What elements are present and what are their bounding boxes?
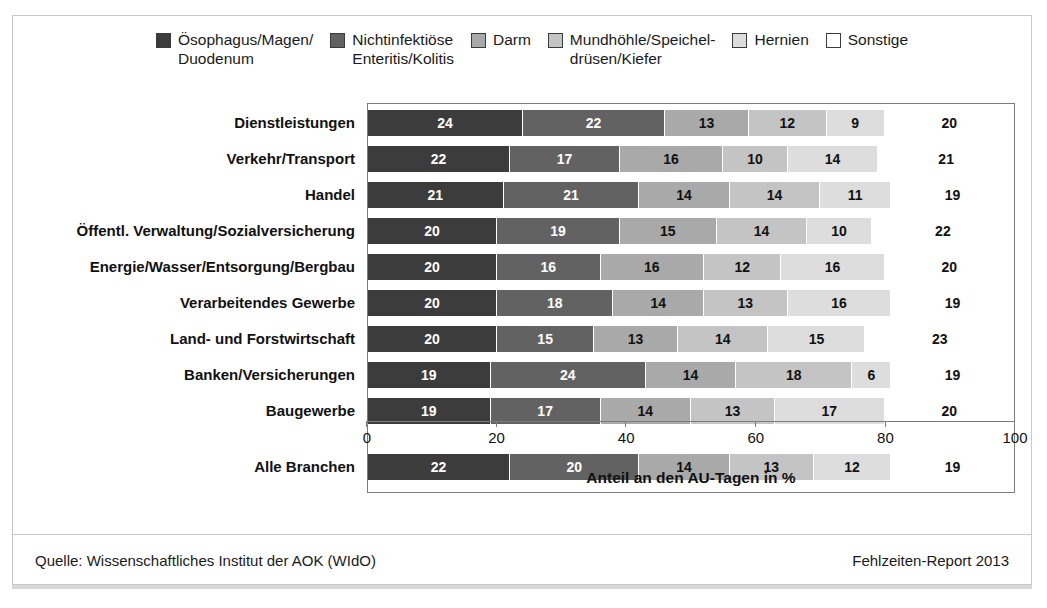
bar-segment: 19 xyxy=(497,218,620,244)
value-axis: 020406080100 xyxy=(367,421,1015,467)
bar-segment: 11 xyxy=(820,182,891,208)
footer-divider xyxy=(13,534,1031,535)
bar-segment: 19 xyxy=(891,182,1014,208)
axis-line xyxy=(367,421,1015,422)
bar-segment: 10 xyxy=(723,146,788,172)
axis-tick-label: 60 xyxy=(747,429,764,446)
legend-row: Ösophagus/Magen/ DuodenumNichtinfektiöse… xyxy=(13,30,1031,68)
bar-segment: 24 xyxy=(368,110,523,136)
bar-segment: 19 xyxy=(891,290,1014,316)
legend-item-label: Darm xyxy=(493,30,531,49)
figure-shadow xyxy=(12,585,1032,589)
bar-segment: 23 xyxy=(865,326,1014,352)
bar-segment: 13 xyxy=(665,110,749,136)
category-label: Energie/Wasser/Entsorgung/Bergbau xyxy=(90,258,355,275)
bar-segment: 20 xyxy=(885,110,1014,136)
bar-segment: 16 xyxy=(620,146,723,172)
legend-item: Hernien xyxy=(732,30,808,49)
legend-item-label: Ösophagus/Magen/ Duodenum xyxy=(178,30,313,68)
axis-tick-label: 40 xyxy=(618,429,635,446)
bar-segment: 14 xyxy=(646,362,736,388)
category-label: Verarbeitendes Gewerbe xyxy=(180,294,355,311)
legend-swatch-icon xyxy=(732,33,747,48)
bar-segment: 12 xyxy=(704,254,782,280)
bar-segment: 20 xyxy=(368,290,497,316)
axis-tick xyxy=(885,421,886,427)
bar-row: 201814131619 xyxy=(368,290,1014,316)
axis-tick-label: 20 xyxy=(488,429,505,446)
axis-tick xyxy=(366,421,367,427)
bar-segment: 15 xyxy=(768,326,865,352)
category-label: Land- und Forstwirtschaft xyxy=(170,330,355,347)
source-text: Quelle: Wissenschaftliches Institut der … xyxy=(35,552,376,569)
bar-row: 19241418619 xyxy=(368,362,1014,388)
category-label: Handel xyxy=(305,186,355,203)
axis-tick-label: 100 xyxy=(1002,429,1027,446)
legend-item-label: Hernien xyxy=(754,30,808,49)
bar-segment: 12 xyxy=(749,110,827,136)
bar-segment: 21 xyxy=(368,182,504,208)
bar-row: 221716101421 xyxy=(368,146,1014,172)
legend-swatch-icon xyxy=(156,33,171,48)
bar-segment: 13 xyxy=(704,290,788,316)
bar-segment: 14 xyxy=(717,218,807,244)
bar-segment: 16 xyxy=(497,254,600,280)
legend-swatch-icon xyxy=(471,33,486,48)
axis-tick xyxy=(755,421,756,427)
chart-legend: Ösophagus/Magen/ DuodenumNichtinfektiöse… xyxy=(13,30,1031,86)
legend-item: Darm xyxy=(471,30,531,49)
bar-row: 201616121620 xyxy=(368,254,1014,280)
bar-segment: 18 xyxy=(736,362,852,388)
bar-segment: 10 xyxy=(807,218,872,244)
category-label: Dienstleistungen xyxy=(234,114,355,131)
bar-segment: 13 xyxy=(594,326,678,352)
axis-tick xyxy=(1014,421,1015,427)
report-text: Fehlzeiten-Report 2013 xyxy=(852,552,1009,569)
category-label: Baugewerbe xyxy=(266,402,355,419)
bar-segment: 16 xyxy=(781,254,884,280)
bar-segment: 18 xyxy=(497,290,613,316)
category-label: Verkehr/Transport xyxy=(227,150,355,167)
bar-segment: 20 xyxy=(368,254,497,280)
bar-segment: 14 xyxy=(639,182,729,208)
bar-segment: 14 xyxy=(788,146,878,172)
axis-tick xyxy=(496,421,497,427)
bar-segment: 20 xyxy=(885,254,1014,280)
bar-segment: 15 xyxy=(497,326,594,352)
category-label: Alle Branchen xyxy=(254,458,355,475)
bar-segment: 14 xyxy=(678,326,768,352)
legend-item: Nichtinfektiöse Enteritis/Kolitis xyxy=(330,30,454,68)
bar-segment: 16 xyxy=(601,254,704,280)
axis-tick xyxy=(625,421,626,427)
legend-item: Sonstige xyxy=(826,30,908,49)
axis-tick-label: 0 xyxy=(363,429,371,446)
legend-swatch-icon xyxy=(548,33,563,48)
legend-item: Mundhöhle/Speichel- drüsen/Kiefer xyxy=(548,30,716,68)
bar-segment: 21 xyxy=(504,182,640,208)
bar-segment: 9 xyxy=(827,110,885,136)
bar-segment: 21 xyxy=(878,146,1014,172)
legend-item-label: Sonstige xyxy=(848,30,908,49)
bar-row: 201915141022 xyxy=(368,218,1014,244)
category-label: Öffentl. Verwaltung/Sozialversicherung xyxy=(77,222,355,239)
bar-row: 24221312920 xyxy=(368,110,1014,136)
axis-tick-label: 80 xyxy=(877,429,894,446)
bar-segment: 19 xyxy=(891,362,1014,388)
bar-segment: 15 xyxy=(620,218,717,244)
category-label: Banken/Versicherungen xyxy=(184,366,355,383)
bar-segment: 24 xyxy=(491,362,646,388)
legend-item-label: Mundhöhle/Speichel- drüsen/Kiefer xyxy=(570,30,716,68)
legend-item: Ösophagus/Magen/ Duodenum xyxy=(156,30,313,68)
bar-segment: 6 xyxy=(852,362,891,388)
bar-row: 201513141523 xyxy=(368,326,1014,352)
legend-swatch-icon xyxy=(826,33,841,48)
x-axis-title: Anteil an den AU-Tagen in % xyxy=(367,469,1015,487)
bar-segment: 17 xyxy=(510,146,620,172)
category-axis-labels: DienstleistungenVerkehr/TransportHandelÖ… xyxy=(13,88,363,508)
bar-segment: 20 xyxy=(368,218,497,244)
bar-segment: 20 xyxy=(368,326,497,352)
legend-item-label: Nichtinfektiöse Enteritis/Kolitis xyxy=(352,30,454,68)
bar-segment: 19 xyxy=(368,362,491,388)
bar-segment: 22 xyxy=(368,146,510,172)
chart-footer: Quelle: Wissenschaftliches Institut der … xyxy=(13,538,1031,582)
